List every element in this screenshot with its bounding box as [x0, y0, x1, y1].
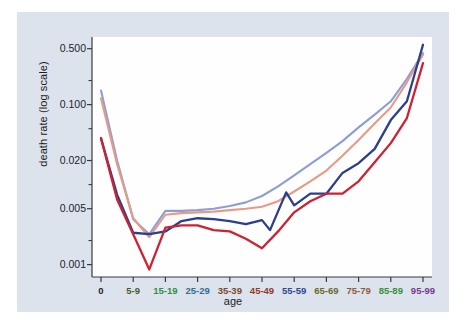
- x-axis-title: age: [17, 295, 449, 307]
- y-tick-label: 0.100: [40, 98, 86, 110]
- x-tick-label: 95-99: [393, 285, 453, 296]
- series-line: [101, 63, 423, 269]
- y-tick-label: 0.001: [40, 258, 86, 270]
- chart-figure: death rate (log scale) age 0.5000.1000.0…: [17, 12, 449, 312]
- y-tick-label: 0.020: [40, 154, 86, 166]
- y-tick-label: 0.500: [40, 42, 86, 54]
- plot-svg: [92, 37, 432, 277]
- series-line: [101, 55, 423, 237]
- y-tick-label: 0.005: [40, 202, 86, 214]
- plot-area: [92, 37, 432, 277]
